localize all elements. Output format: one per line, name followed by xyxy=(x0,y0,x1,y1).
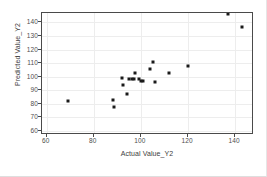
x-tick-label: 60 xyxy=(31,137,61,145)
x-tick-mark xyxy=(140,134,141,137)
y-tick-mark xyxy=(38,76,41,77)
data-point xyxy=(149,67,152,70)
data-point xyxy=(142,79,145,82)
x-axis-tick-labels: 6080100120140 xyxy=(41,137,253,147)
gridline-vertical xyxy=(94,13,95,133)
gridline-horizontal xyxy=(42,104,252,105)
y-tick-label: 60 xyxy=(16,126,38,133)
gridline-horizontal xyxy=(42,117,252,118)
x-tick-mark xyxy=(234,134,235,137)
x-tick-mark xyxy=(187,134,188,137)
plot-area xyxy=(41,12,253,134)
x-tick-mark xyxy=(93,134,94,137)
data-point xyxy=(151,60,154,63)
y-tick-mark xyxy=(38,21,41,22)
x-tick-label: 80 xyxy=(78,137,108,145)
y-axis-title: Predicted Value_Y2 xyxy=(14,0,21,116)
gridline-vertical xyxy=(47,13,48,133)
x-axis-title: Actual Value_Y2 xyxy=(41,150,253,157)
data-point xyxy=(121,77,124,80)
y-tick-mark xyxy=(38,89,41,90)
y-tick-mark xyxy=(38,35,41,36)
gridline-horizontal xyxy=(42,50,252,51)
data-point xyxy=(154,81,157,84)
y-tick-mark xyxy=(38,130,41,131)
data-point xyxy=(132,78,135,81)
gridline-horizontal xyxy=(42,90,252,91)
x-tick-label: 120 xyxy=(172,137,202,145)
gridline-vertical xyxy=(188,13,189,133)
gridline-horizontal xyxy=(42,36,252,37)
data-point xyxy=(112,105,115,108)
gridline-horizontal xyxy=(42,22,252,23)
data-point xyxy=(134,71,137,74)
x-tick-label: 100 xyxy=(125,137,155,145)
data-point xyxy=(122,83,125,86)
scatter-plot-figure: 60708090100110120130140 6080100120140 Ac… xyxy=(0,0,267,177)
y-tick-mark xyxy=(38,116,41,117)
y-tick-mark xyxy=(38,103,41,104)
gridline-horizontal xyxy=(42,131,252,132)
y-tick-mark xyxy=(38,49,41,50)
x-tick-mark xyxy=(46,134,47,137)
gridline-horizontal xyxy=(42,77,252,78)
gridline-vertical xyxy=(141,13,142,133)
y-tick-mark xyxy=(38,62,41,63)
data-point xyxy=(125,93,128,96)
data-point xyxy=(187,64,190,67)
data-point xyxy=(66,100,69,103)
gridline-horizontal xyxy=(42,63,252,64)
data-point xyxy=(168,71,171,74)
data-point xyxy=(227,13,230,16)
data-point xyxy=(111,98,114,101)
data-point xyxy=(241,25,244,28)
gridline-vertical xyxy=(235,13,236,133)
x-tick-label: 140 xyxy=(219,137,249,145)
